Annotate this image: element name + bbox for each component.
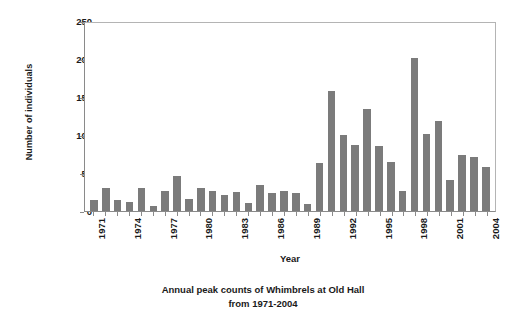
bar-slot: [456, 23, 468, 211]
x-tick-mark: [439, 212, 440, 216]
x-tick-mark: [272, 212, 273, 216]
bar-slot: [254, 23, 266, 211]
x-tick-mark: [105, 212, 106, 216]
bar-slot: [337, 23, 349, 211]
x-tick-mark: [380, 212, 381, 216]
bar-series: [85, 23, 495, 211]
x-tick-label: 2001: [455, 218, 465, 239]
bar-1999: [423, 134, 431, 211]
bar-slot: [124, 23, 136, 211]
bar-1973: [114, 200, 122, 211]
x-tick-mark: [463, 212, 464, 216]
bar-1975: [138, 188, 146, 211]
x-tick-mark: [332, 212, 333, 216]
x-tick-label: 1998: [419, 218, 429, 239]
bar-1995: [375, 146, 383, 211]
bar-slot: [314, 23, 326, 211]
x-tick-mark: [177, 212, 178, 216]
x-tick-mark: [308, 212, 309, 216]
bar-2000: [435, 121, 443, 211]
bar-2004: [482, 167, 490, 211]
bar-slot: [278, 23, 290, 211]
caption-line-1: Annual peak counts of Whimbrels at Old H…: [63, 283, 463, 297]
x-tick-mark: [141, 212, 142, 216]
bar-1987: [280, 191, 288, 211]
x-tick-mark: [236, 212, 237, 216]
bar-2001: [446, 180, 454, 211]
bar-slot: [159, 23, 171, 211]
bar-slot: [136, 23, 148, 211]
bar-slot: [290, 23, 302, 211]
x-tick-mark: [392, 212, 393, 216]
x-tick-mark: [248, 212, 249, 216]
x-tick-mark: [260, 212, 261, 216]
bar-slot: [385, 23, 397, 211]
x-tick-mark: [415, 212, 416, 216]
bar-1979: [185, 199, 193, 211]
bar-slot: [100, 23, 112, 211]
x-tick-mark: [189, 212, 190, 216]
x-tick-mark: [129, 212, 130, 216]
bar-1971: [90, 200, 98, 211]
chart-caption: Annual peak counts of Whimbrels at Old H…: [63, 283, 463, 311]
bar-1988: [292, 193, 300, 211]
bar-slot: [397, 23, 409, 211]
x-tick-mark: [427, 212, 428, 216]
bar-1994: [363, 109, 371, 211]
x-tick-mark: [451, 212, 452, 216]
x-tick-mark: [368, 212, 369, 216]
x-tick-label: 1992: [348, 218, 358, 239]
bar-slot: [88, 23, 100, 211]
x-tick-mark: [284, 212, 285, 216]
bar-slot: [468, 23, 480, 211]
bar-1985: [256, 185, 264, 211]
bar-2003: [470, 157, 478, 211]
bar-slot: [207, 23, 219, 211]
bar-slot: [302, 23, 314, 211]
bar-2002: [458, 155, 466, 211]
x-tick-mark: [165, 212, 166, 216]
bar-1982: [221, 195, 229, 211]
bar-1981: [209, 191, 217, 211]
x-tick-label: 1977: [169, 218, 179, 239]
bar-1984: [245, 203, 253, 211]
caption-line-2: from 1971-2004: [63, 297, 463, 311]
x-tick-label: 1974: [133, 218, 143, 239]
bar-1986: [268, 193, 276, 211]
bar-slot: [112, 23, 124, 211]
y-tick-mark: [80, 212, 84, 213]
chart-figure: Number of individuals 050100150200250 19…: [0, 0, 526, 330]
x-tick-mark: [212, 212, 213, 216]
bar-slot: [219, 23, 231, 211]
x-tick-mark: [200, 212, 201, 216]
bar-slot: [231, 23, 243, 211]
x-tick-label: 2004: [491, 218, 501, 239]
x-tick-mark: [403, 212, 404, 216]
x-tick-mark: [153, 212, 154, 216]
bar-slot: [432, 23, 444, 211]
bar-1978: [173, 176, 181, 211]
bar-slot: [361, 23, 373, 211]
x-tick-mark: [475, 212, 476, 216]
y-axis-title: Number of individuals: [24, 32, 34, 192]
bar-slot: [147, 23, 159, 211]
bar-slot: [444, 23, 456, 211]
bar-slot: [421, 23, 433, 211]
x-tick-label: 1971: [97, 218, 107, 239]
bar-1997: [399, 191, 407, 211]
x-tick-label: 1989: [312, 218, 322, 239]
x-tick-mark: [93, 212, 94, 216]
x-tick-mark: [224, 212, 225, 216]
bar-1991: [328, 91, 336, 211]
x-tick-label: 1986: [276, 218, 286, 239]
x-tick-mark: [356, 212, 357, 216]
bar-1998: [411, 58, 419, 211]
bar-slot: [171, 23, 183, 211]
bar-slot: [266, 23, 278, 211]
bar-slot: [480, 23, 492, 211]
x-tick-mark: [296, 212, 297, 216]
bar-1989: [304, 204, 312, 211]
bar-1993: [351, 145, 359, 211]
bar-1992: [340, 135, 348, 211]
plot-area: [84, 22, 496, 212]
